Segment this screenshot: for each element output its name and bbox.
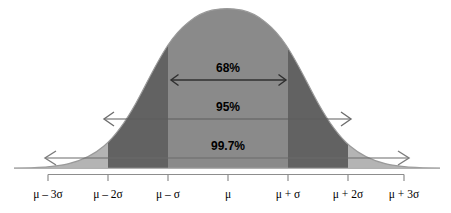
region-left-mid	[108, 0, 168, 169]
region-left-tail	[0, 0, 108, 169]
normal-distribution-figure: 68% 95% 99.7% μ – 3σ μ – 2σ μ – σ μ μ + …	[0, 0, 451, 213]
sigma-axis	[48, 175, 404, 182]
axis-label-minus-1-sigma: μ – σ	[156, 188, 180, 200]
axis-label-plus-3-sigma: μ + 3σ	[389, 188, 419, 200]
axis-label-minus-3-sigma: μ – 3σ	[33, 188, 63, 200]
band-label-68: 68%	[216, 62, 240, 74]
band-label-997: 99.7%	[211, 140, 245, 152]
band-label-95: 95%	[216, 101, 240, 113]
axis-label-mu: μ	[225, 188, 231, 200]
axis-label-plus-1-sigma: μ + σ	[276, 188, 301, 200]
region-right-mid	[288, 0, 348, 169]
axis-label-minus-2-sigma: μ – 2σ	[93, 188, 123, 200]
region-right-tail	[348, 0, 451, 169]
axis-label-plus-2-sigma: μ + 2σ	[333, 188, 363, 200]
